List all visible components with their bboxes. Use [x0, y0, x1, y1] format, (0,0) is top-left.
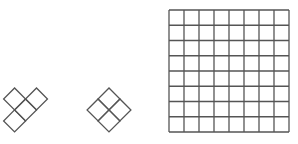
square-piece: [87, 88, 131, 132]
diagram-canvas: [0, 0, 298, 144]
board-grid: [169, 10, 289, 132]
tetromino-piece: [0, 77, 47, 132]
